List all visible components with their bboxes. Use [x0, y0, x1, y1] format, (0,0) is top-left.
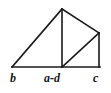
diagram-strokes [12, 9, 100, 67]
vertex-label-b: b [10, 72, 16, 84]
left-hypotenuse-segment [12, 9, 62, 67]
vertex-label-a-minus-d: a-d [44, 72, 60, 84]
upper-right-edge-segment [62, 9, 99, 33]
vertex-label-c: c [93, 72, 98, 84]
right-diagonal-segment [62, 33, 99, 67]
geometry-figure: b a-d c [0, 0, 111, 93]
